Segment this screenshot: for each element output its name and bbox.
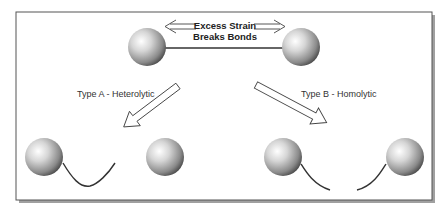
atom-a-with-electrons: [25, 138, 63, 176]
title-line-1: Excess Strain: [194, 20, 257, 31]
atom-top-right: [282, 28, 320, 66]
atom-top-left: [128, 28, 166, 66]
bond-breaking-diagram: Excess Strain Breaks Bonds Type A - Hete…: [0, 0, 444, 214]
title-line-2: Breaks Bonds: [193, 31, 257, 42]
atom-a-without-electrons: [146, 138, 184, 176]
atom-b-left: [264, 138, 302, 176]
type-b-label: Type B - Homolytic: [301, 89, 377, 99]
atom-b-right: [386, 138, 424, 176]
type-a-label: Type A - Heterolytic: [77, 89, 155, 99]
